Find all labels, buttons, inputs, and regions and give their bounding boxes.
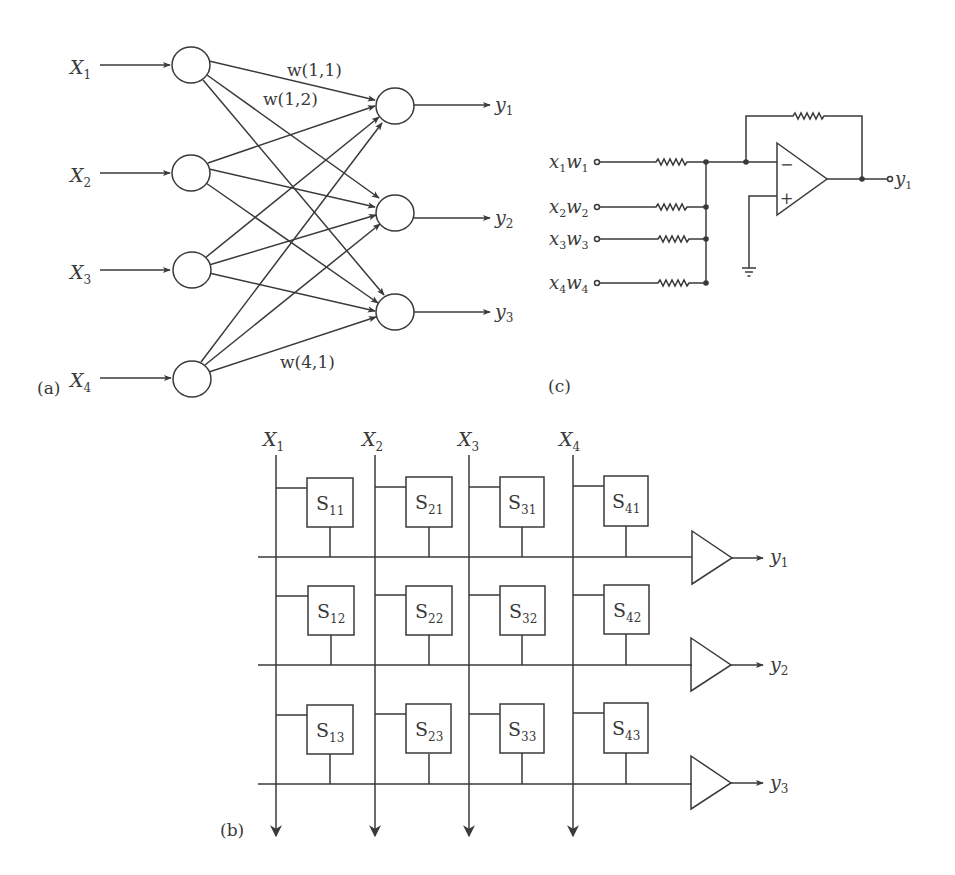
input-neuron-4 — [173, 361, 211, 397]
synapse-cell-s33: S33 — [469, 704, 544, 784]
crossbar-output-label-y1: y1 — [769, 545, 788, 570]
input-terminal — [595, 205, 600, 210]
circuit-output-label: y1 — [894, 168, 912, 192]
column-label-x1: X1 — [261, 428, 284, 454]
plus-sign: + — [780, 189, 793, 208]
panel-b-crossbar: X1 X2 X3 X4 S11 S21 S31 — [220, 428, 788, 840]
feedback-resistor — [746, 113, 862, 179]
junction-dot — [859, 176, 865, 182]
column-label-x2: X2 — [360, 428, 383, 454]
input-neuron-2 — [172, 155, 210, 191]
output-neuron-2 — [376, 195, 414, 231]
ground-wire — [749, 196, 777, 268]
crossbar-output-label-y2: y2 — [769, 653, 788, 678]
synapse-cell-s22: S22 — [375, 586, 452, 665]
synapse-cell-s21: S21 — [375, 477, 452, 557]
output-terminal — [888, 177, 893, 182]
amplifier-triangle-2 — [691, 638, 731, 691]
output-neuron-1 — [376, 88, 414, 124]
synapse-cell-s43: S43 — [573, 703, 648, 784]
crossbar-output-label-y3: y3 — [769, 771, 788, 796]
junction-dot — [703, 159, 709, 165]
junction-dot — [703, 204, 709, 210]
weight-label-w41: w(4,1) — [280, 352, 335, 372]
panel-a-network: X1 X2 X3 X4 (a) w(1, — [37, 47, 513, 398]
figure-canvas: X1 X2 X3 X4 (a) w(1, — [0, 0, 955, 875]
synapse-cell-s41: S41 — [573, 476, 648, 557]
column-label-x3: X3 — [456, 428, 479, 454]
input-neuron-3 — [173, 252, 211, 288]
circuit-input-label-4: x4w4 — [549, 272, 589, 296]
weight-label-w11: w(1,1) — [287, 60, 342, 80]
output-label-y2: y2 — [494, 206, 513, 231]
input-label-x3: X3 — [68, 261, 91, 287]
amplifier-triangle-3 — [691, 756, 731, 809]
synapse-cell-s31: S31 — [469, 477, 544, 557]
circuit-input-label-1: x1w1 — [549, 151, 589, 175]
input-label-x1: X1 — [68, 56, 91, 82]
minus-sign: − — [780, 155, 793, 174]
panel-c-label: (c) — [548, 376, 571, 396]
input-terminal — [595, 281, 600, 286]
ground-icon — [742, 268, 756, 276]
input-label-x4: X4 — [68, 369, 92, 395]
panel-b-label: (b) — [220, 820, 244, 840]
synapse-cell-s12: S12 — [276, 586, 354, 665]
input-terminal — [595, 237, 600, 242]
junction-dot — [703, 280, 709, 286]
output-neuron-3 — [376, 294, 414, 330]
input-terminal — [595, 160, 600, 165]
output-label-y3: y3 — [494, 300, 513, 325]
panel-a-label: (a) — [37, 378, 60, 398]
column-label-x4: X4 — [557, 428, 581, 454]
synapse-cell-s13: S13 — [276, 705, 353, 784]
input-neuron-1 — [172, 47, 210, 83]
synapse-cell-s11: S11 — [276, 478, 353, 557]
synapse-cell-s42: S42 — [573, 585, 649, 665]
synapse-cell-s23: S23 — [375, 704, 451, 784]
circuit-input-label-2: x2w2 — [549, 196, 589, 220]
input-resistor-network — [600, 159, 777, 286]
junction-dot — [703, 236, 709, 242]
circuit-input-label-3: x3w3 — [549, 228, 589, 252]
output-label-y1: y1 — [494, 93, 513, 118]
synapse-cell-s32: S32 — [469, 586, 545, 665]
input-label-x2: X2 — [68, 164, 91, 190]
weight-label-w12: w(1,2) — [263, 89, 318, 109]
amplifier-triangle-1 — [692, 531, 732, 584]
panel-c-opamp-circuit: x1w1 x2w2 x3w3 x4w4 − + — [548, 113, 912, 396]
